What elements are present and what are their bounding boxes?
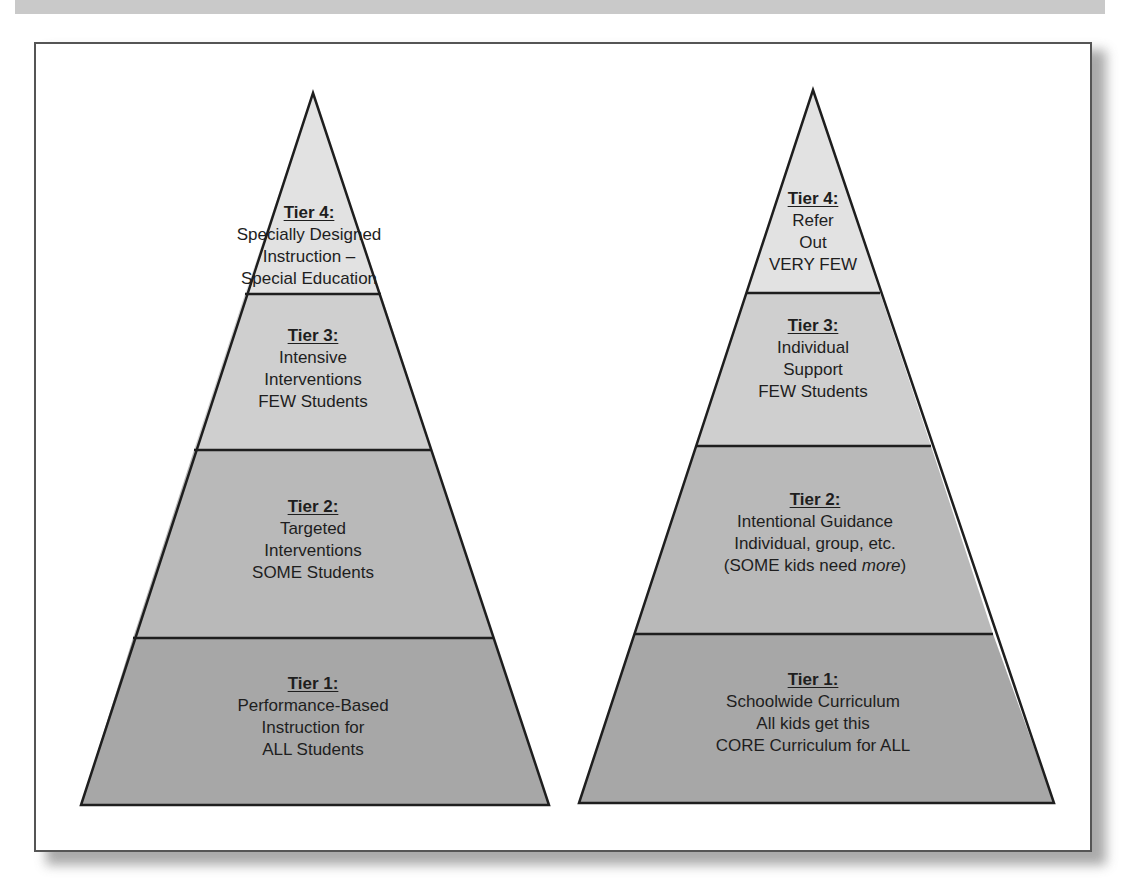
tier-line: Individual, group, etc. xyxy=(724,533,906,555)
tier-line: Intentional Guidance xyxy=(724,511,906,533)
tier-title: Tier 3: xyxy=(758,315,868,337)
tier-line: FEW Students xyxy=(258,391,368,413)
tier-title: Tier 4: xyxy=(237,202,382,224)
right-tier-2-label: Tier 2: Intentional Guidance Individual,… xyxy=(724,489,906,577)
left-tier-2-label: Tier 2: Targeted Interventions SOME Stud… xyxy=(252,496,374,584)
left-tier-3-label: Tier 3: Intensive Interventions FEW Stud… xyxy=(258,325,368,413)
tier-line: Instruction – xyxy=(237,246,382,268)
left-tier-4-label: Tier 4: Specially Designed Instruction –… xyxy=(237,202,382,290)
tier-line: Out xyxy=(769,232,857,254)
tier-line: All kids get this xyxy=(716,713,911,735)
tier-line: Instruction for xyxy=(237,717,388,739)
line-suffix: ) xyxy=(901,556,907,575)
tier-line: Support xyxy=(758,359,868,381)
tier-line: Schoolwide Curriculum xyxy=(716,691,911,713)
tier-line-with-emphasis: (SOME kids need more) xyxy=(724,555,906,577)
tier-line: Special Education xyxy=(237,268,382,290)
tier-line: Interventions xyxy=(258,369,368,391)
pyramids-graphic xyxy=(0,0,1134,881)
tier-title: Tier 4: xyxy=(769,188,857,210)
tier-line: Targeted xyxy=(252,518,374,540)
left-tier-1-label: Tier 1: Performance-Based Instruction fo… xyxy=(237,673,388,761)
tier-line: Interventions xyxy=(252,540,374,562)
tier-line: Performance-Based xyxy=(237,695,388,717)
tier-title: Tier 1: xyxy=(716,669,911,691)
tier-line: Refer xyxy=(769,210,857,232)
tier-line: Individual xyxy=(758,337,868,359)
tier-line: Intensive xyxy=(258,347,368,369)
emphasis-word: more xyxy=(862,556,901,575)
tier-title: Tier 2: xyxy=(252,496,374,518)
line-prefix: (SOME kids need xyxy=(724,556,862,575)
right-tier-3-label: Tier 3: Individual Support FEW Students xyxy=(758,315,868,403)
right-tier-1-label: Tier 1: Schoolwide Curriculum All kids g… xyxy=(716,669,911,757)
tier-title: Tier 3: xyxy=(258,325,368,347)
right-tier-4-label: Tier 4: Refer Out VERY FEW xyxy=(769,188,857,276)
tier-line: Specially Designed xyxy=(237,224,382,246)
tier-line: CORE Curriculum for ALL xyxy=(716,735,911,757)
tier-line: VERY FEW xyxy=(769,254,857,276)
tier-title: Tier 1: xyxy=(237,673,388,695)
tier-line: ALL Students xyxy=(237,739,388,761)
tier-title: Tier 2: xyxy=(724,489,906,511)
tier-line: SOME Students xyxy=(252,562,374,584)
tier-line: FEW Students xyxy=(758,381,868,403)
